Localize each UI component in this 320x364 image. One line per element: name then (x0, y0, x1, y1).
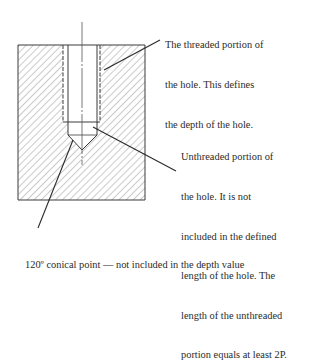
drilled-hole-outline (68, 45, 97, 150)
callout-line: Unthreaded portion of (181, 150, 287, 163)
callout-line: portion equals at least 2P. (181, 348, 287, 361)
callout-line: The threaded portion of (165, 38, 263, 51)
callout-line: the hole. This defines (165, 78, 263, 91)
callout-line: the hole. It is not (181, 190, 287, 203)
callout-line: length of the unthreaded (181, 309, 287, 322)
callout-conical-point: 120º conical point — not included in the… (25, 232, 244, 285)
callout-line: 120º conical point — not included in the… (25, 258, 244, 271)
